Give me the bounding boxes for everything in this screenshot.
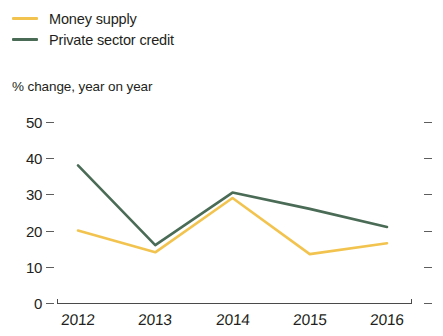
y-tick-mark-left <box>46 158 54 159</box>
y-tick-mark-right <box>424 267 432 268</box>
series-lines <box>0 0 443 336</box>
x-tick-label: 2012 <box>61 311 96 329</box>
y-tick-label: 0 <box>8 295 42 312</box>
y-tick-mark-left <box>46 122 54 123</box>
y-tick-mark-left <box>46 194 54 195</box>
y-tick-mark-right <box>424 122 432 123</box>
y-tick-label: 40 <box>8 150 42 167</box>
y-tick-mark-right <box>424 303 432 304</box>
x-tick-label: 2014 <box>215 311 250 329</box>
y-tick-label: 30 <box>8 186 42 203</box>
y-tick-mark-right <box>424 158 432 159</box>
y-tick-mark-right <box>424 231 432 232</box>
x-tick-label: 2016 <box>370 311 405 329</box>
y-tick-mark-left <box>46 267 54 268</box>
y-tick-label: 20 <box>8 222 42 239</box>
series-line-money-supply <box>78 198 387 254</box>
y-tick-mark-right <box>424 194 432 195</box>
line-chart-figure: Money supply Private sector credit % cha… <box>0 0 443 336</box>
y-tick-mark-left <box>46 231 54 232</box>
y-tick-label: 50 <box>8 114 42 131</box>
x-axis-cap-right <box>411 299 412 304</box>
series-line-private-sector-credit <box>78 165 387 245</box>
y-tick-label: 10 <box>8 258 42 275</box>
y-tick-mark-left <box>46 303 54 304</box>
x-tick-label: 2015 <box>292 311 327 329</box>
plot-area: 0102030405020122013201420152016 <box>0 0 443 336</box>
x-axis-line <box>57 303 412 304</box>
x-tick-label: 2013 <box>138 311 173 329</box>
x-axis-cap-left <box>57 299 58 304</box>
